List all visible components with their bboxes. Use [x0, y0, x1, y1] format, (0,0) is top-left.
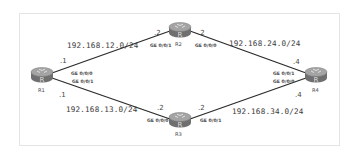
router-icon: R	[304, 66, 328, 84]
iface-r3-r4: GE 0/0/1	[200, 118, 221, 123]
iface-r4-r3: GE 0/0/0	[273, 79, 294, 84]
ip-r3-to-r4: .2	[198, 104, 205, 112]
ip-r2-to-r4: .2	[198, 29, 205, 37]
svg-text:R: R	[178, 121, 183, 129]
router-r1[interactable]: R	[30, 66, 54, 84]
ip-r4-to-r2: .4	[293, 58, 300, 66]
link-r1-r2	[52, 31, 170, 73]
router-label-r2: R2	[175, 41, 182, 47]
iface-r1-r2: GE 0/0/0	[71, 71, 92, 76]
network-label-r1-r2: 192.168.12.0/24	[67, 41, 139, 50]
ip-r4-to-r3: .4	[295, 91, 302, 99]
svg-text:R: R	[178, 31, 183, 39]
router-icon: R	[30, 66, 54, 84]
router-icon: R	[168, 21, 192, 39]
network-label-r2-r4: 192.168.24.0/24	[229, 39, 301, 48]
svg-text:R: R	[40, 76, 45, 84]
iface-r2-r4: GE 0/0/0	[195, 43, 216, 48]
ip-r2-to-r1: .2	[154, 29, 161, 37]
ip-r1-to-r3: .1	[59, 91, 66, 99]
link-r2-r4	[190, 31, 306, 73]
router-r3[interactable]: R	[168, 111, 192, 129]
iface-r1-r3: GE 0/0/1	[72, 79, 93, 84]
network-label-r1-r3: 192.168.13.0/24	[66, 105, 138, 114]
router-r4[interactable]: R	[304, 66, 328, 84]
router-label-r4: R4	[312, 87, 319, 93]
iface-r4-r2: GE 0/0/1	[273, 71, 294, 76]
router-r2[interactable]: R	[168, 21, 192, 39]
ip-r3-to-r1: .2	[157, 104, 164, 112]
svg-text:R: R	[314, 76, 319, 84]
router-icon: R	[168, 111, 192, 129]
iface-r3-r1: GE 0/0/0	[147, 118, 168, 123]
router-label-r3: R3	[175, 131, 182, 137]
iface-r2-r1: GE 0/0/1	[150, 43, 171, 48]
network-label-r3-r4: 192.168.34.0/24	[232, 107, 304, 116]
ip-r1-to-r2: .1	[60, 57, 67, 65]
router-label-r1: R1	[38, 87, 45, 93]
